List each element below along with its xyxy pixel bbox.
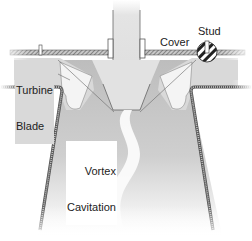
shaft-seal-left [108, 39, 113, 58]
label-cover: Cover [159, 36, 190, 48]
label-turbine-blade-line1: Turbine [16, 84, 53, 96]
shaft [108, 0, 145, 60]
label-vortex-line1: Vortex [67, 165, 116, 177]
shaft-seal-right [140, 39, 145, 58]
stud [197, 41, 217, 62]
label-vortex-cavitation: Vortex Cavitation [66, 141, 117, 225]
label-vortex-line2: Cavitation [67, 201, 116, 213]
label-turbine-blade-line2: Blade [16, 120, 53, 132]
label-stud: Stud [198, 25, 221, 37]
bolt-icon [39, 45, 42, 55]
label-turbine-blade: Turbine Blade [15, 60, 54, 144]
